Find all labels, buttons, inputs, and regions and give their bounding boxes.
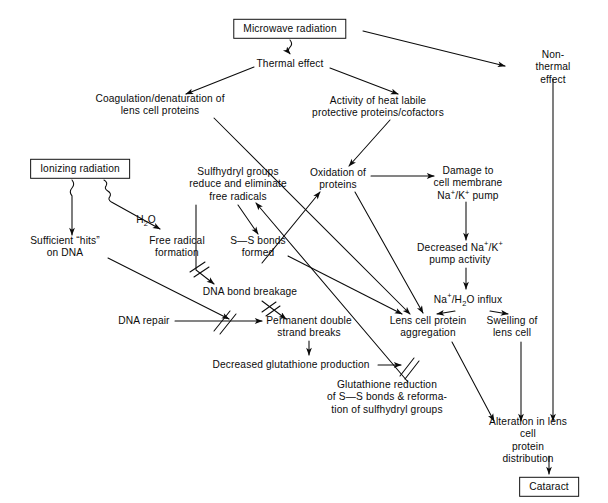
na-k-pump-label: Na+/K+ pump [437,190,498,201]
edge-influx-aggregation [437,311,455,314]
node-heat-labile-proteins[interactable]: Activity of heat labile protective prote… [312,95,444,120]
node-dna-bond-breakage[interactable]: DNA bond breakage [203,286,297,298]
node-free-radical-formation[interactable]: Free radical formation [149,235,205,260]
edge-coagulation-aggregation [214,118,410,314]
node-damage-cell-membrane[interactable]: Damage tocell membraneNa+/K+ pump [434,165,503,202]
node-swelling-of-lens-cell[interactable]: Swelling of lens cell [487,315,538,340]
inhibit-mark-dnarepair-a [214,311,230,331]
edge-heatlabile-oxidation [349,120,390,166]
node-decreased-glutathione-production[interactable]: Decreased glutathione production [212,359,369,371]
edge-thermal-coagulation [186,67,254,94]
inhibit-mark-decrglut-b [405,361,419,379]
node-cataract[interactable]: Cataract [519,477,579,497]
node-coagulation-denaturation[interactable]: Coagulation/denaturation of lens cell pr… [95,93,224,118]
node-microwave-radiation[interactable]: Microwave radiation [233,19,346,39]
node-lens-cell-protein-aggregation[interactable]: Lens cell protein aggregation [390,315,467,340]
node-alteration-protein-distribution[interactable]: Alteration in lens cell protein distribu… [488,416,568,466]
node-decreased-pump-activity[interactable]: Decreased Na+/K+pump activity [417,242,503,267]
node-thermal-effect[interactable]: Thermal effect [256,58,323,70]
cataract-pathway-diagram: Microwave radiation Thermal effect Non-t… [0,0,608,503]
node-dna-repair[interactable]: DNA repair [118,315,169,327]
edge-microwave-thermal [288,40,291,54]
edge-ionizing-hits [70,180,73,235]
node-oxidation-of-proteins[interactable]: Oxidation of proteins [310,167,366,192]
node-ss-bonds-formed[interactable]: S—S bonds formed [230,235,286,260]
inhibit-mark-sulfhydryl-dnabreakage-b [194,267,209,277]
node-na-h2o-influx[interactable]: Na+/H2O influx [434,294,502,306]
edge-oxidation-aggregation [355,192,423,313]
inhibit-mark-dnarepair-b [220,314,236,334]
inhibit-mark-dnabreakage-a [262,302,276,312]
edge-ssbonds-aggregation [288,256,402,314]
node-sulfhydryl-groups[interactable]: Sulfhydryl groups reduce and eliminate f… [189,166,287,203]
node-sufficient-hits-on-dna[interactable]: Sufficient “hits” on DNA [30,235,100,260]
edge-microwave-nonthermal [363,31,505,66]
edge-sulfhydryl-ssbonds [238,205,258,234]
node-ionizing-radiation[interactable]: Ionizing radiation [30,159,130,179]
inhibit-mark-sulfhydryl-dnabreakage-a [190,262,205,272]
node-non-thermal-effect[interactable]: Non-thermal effect [526,49,581,86]
inhibit-mark-decrglut-a [400,358,414,376]
edge-label-h2o: H2O [136,214,155,226]
node-permanent-double-strand-breaks[interactable]: Permanent double strand breaks [266,315,352,340]
edge-thermal-heatlabile [330,68,398,94]
edge-influx-swelling [490,311,508,314]
edge-aggregation-alteration [452,342,494,421]
node-glutathione-reduction[interactable]: Glutathione reduction of S—S bonds & ref… [327,379,447,416]
